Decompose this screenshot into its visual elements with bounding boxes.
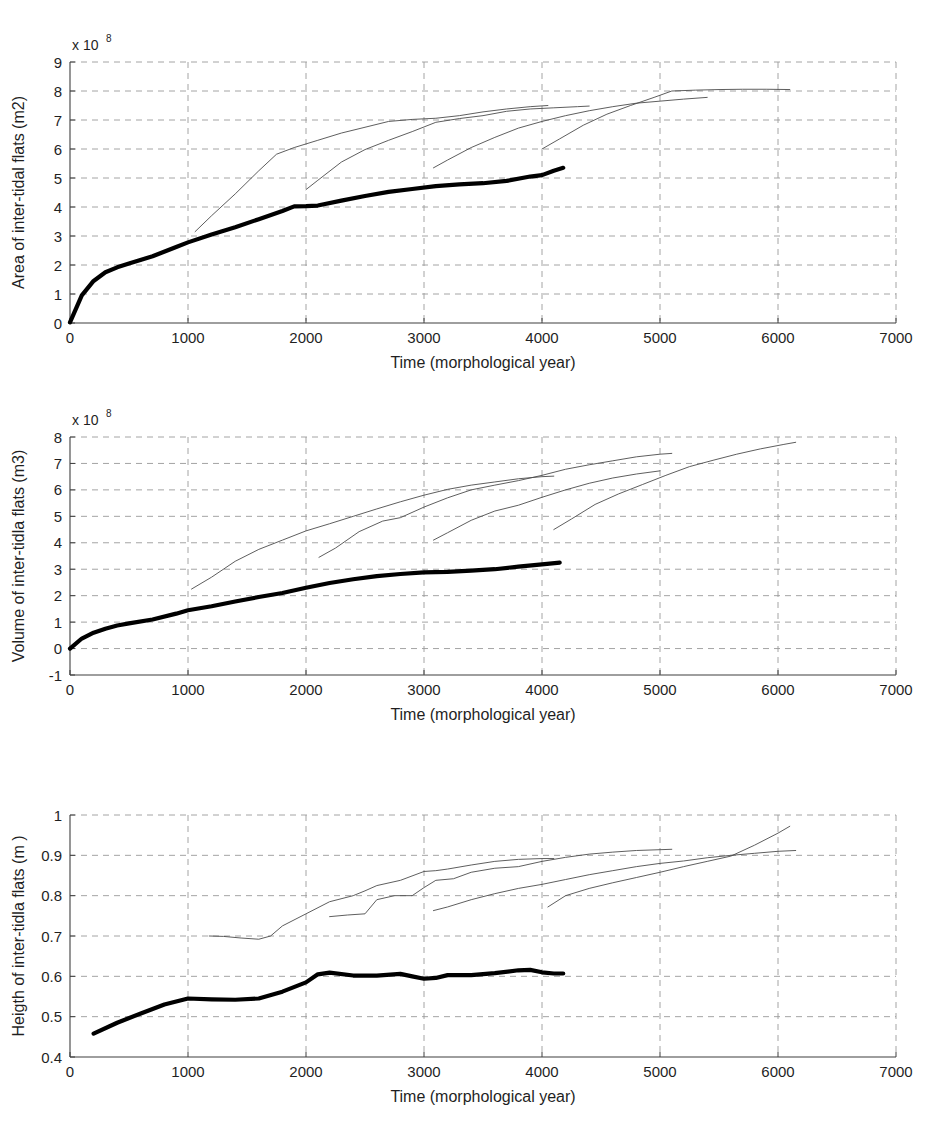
x-tick-label: 3000 [407, 1063, 440, 1080]
x-tick-label: 5000 [643, 681, 676, 698]
series-line-thin [319, 453, 672, 557]
x-tick-label: 5000 [643, 329, 676, 346]
y-tick-label: 0.5 [41, 1008, 62, 1025]
tick-marks: 010002000300040005000600070000.40.50.60.… [41, 807, 913, 1081]
x-tick-label: 0 [66, 1063, 74, 1080]
grid-lines [70, 815, 896, 1057]
x-axis-label: Time (morphological year) [390, 706, 575, 723]
x-tick-label: 7000 [879, 329, 912, 346]
plot-area: 01000200030004000500060007000-1012345678… [10, 408, 913, 723]
y-tick-label: 4 [54, 199, 62, 216]
y-multiplier-text: x 10 [72, 37, 99, 53]
series-group [94, 826, 796, 1033]
x-tick-label: 2000 [289, 329, 322, 346]
y-tick-label: 1 [54, 286, 62, 303]
series-line-thick [94, 970, 564, 1034]
y-axis-label: Volume of inter-tidla flats (m3) [10, 450, 27, 663]
x-tick-label: 3000 [407, 329, 440, 346]
y-tick-label: 5 [54, 170, 62, 187]
y-tick-label: 2 [54, 257, 62, 274]
x-tick-label: 0 [66, 681, 74, 698]
series-line-thick [70, 563, 560, 649]
x-tick-label: 3000 [407, 681, 440, 698]
x-tick-label: 6000 [761, 681, 794, 698]
chart-panel-area: 010002000300040005000600070000123456789x… [0, 0, 947, 385]
y-axis-multiplier: x 108 [72, 408, 112, 428]
figure-caption [0, 1128, 947, 1144]
x-axis-label: Time (morphological year) [390, 1088, 575, 1105]
y-tick-label: 0.8 [41, 887, 62, 904]
y-tick-label: 1 [54, 807, 62, 824]
x-tick-label: 4000 [525, 329, 558, 346]
series-line-thin [195, 106, 548, 232]
x-axis-label: Time (morphological year) [390, 354, 575, 371]
tick-marks: 01000200030004000500060007000-1012345678 [49, 429, 913, 699]
y-tick-label: 9 [54, 54, 62, 71]
y-tick-label: 3 [54, 228, 62, 245]
series-line-thin [433, 850, 795, 910]
y-tick-label: 0 [54, 315, 62, 332]
x-tick-label: 1000 [171, 1063, 204, 1080]
series-line-thin [542, 89, 790, 149]
tick-marks: 010002000300040005000600070000123456789 [54, 54, 913, 347]
x-tick-label: 6000 [761, 1063, 794, 1080]
y-tick-label: 3 [54, 561, 62, 578]
plot-area: 010002000300040005000600070000.40.50.60.… [10, 807, 913, 1106]
figure-root: 010002000300040005000600070000123456789x… [0, 0, 947, 1144]
y-tick-label: 4 [54, 534, 62, 551]
axes [70, 62, 896, 323]
series-line-thick [70, 168, 563, 323]
volume-chart-svg: 01000200030004000500060007000-1012345678… [0, 385, 947, 760]
y-tick-label: 8 [54, 83, 62, 100]
y-multiplier-exponent: 8 [106, 33, 112, 44]
series-line-thin [330, 849, 672, 916]
series-line-thin [548, 826, 790, 907]
x-tick-label: 2000 [289, 1063, 322, 1080]
y-tick-label: 7 [54, 112, 62, 129]
y-tick-label: 0.9 [41, 847, 62, 864]
y-axis-multiplier: x 108 [72, 33, 112, 53]
y-tick-label: 6 [54, 481, 62, 498]
y-tick-label: 6 [54, 141, 62, 158]
y-multiplier-exponent: 8 [106, 408, 112, 419]
grid-lines [70, 437, 896, 675]
y-multiplier-text: x 10 [72, 412, 99, 428]
y-tick-label: 0.7 [41, 928, 62, 945]
y-tick-label: 1 [54, 614, 62, 631]
series-line-thin [192, 476, 554, 589]
x-tick-label: 5000 [643, 1063, 676, 1080]
series-line-thin [433, 471, 660, 540]
x-tick-label: 7000 [879, 681, 912, 698]
chart-panel-volume: 01000200030004000500060007000-1012345678… [0, 385, 947, 760]
chart-panel-height: 010002000300040005000600070000.40.50.60.… [0, 760, 947, 1144]
y-tick-label: 0.4 [41, 1049, 62, 1066]
x-tick-label: 4000 [525, 681, 558, 698]
x-tick-label: 2000 [289, 681, 322, 698]
y-tick-label: 2 [54, 587, 62, 604]
y-tick-label: 0 [54, 640, 62, 657]
x-tick-label: 0 [66, 329, 74, 346]
x-tick-label: 1000 [171, 329, 204, 346]
series-group [70, 89, 790, 322]
y-tick-label: 7 [54, 455, 62, 472]
area-chart-svg: 010002000300040005000600070000123456789x… [0, 0, 947, 385]
x-tick-label: 7000 [879, 1063, 912, 1080]
plot-area: 010002000300040005000600070000123456789x… [10, 33, 913, 371]
y-tick-label: 8 [54, 429, 62, 446]
axes [70, 437, 896, 675]
height-chart-svg: 010002000300040005000600070000.40.50.60.… [0, 760, 947, 1144]
x-tick-label: 4000 [525, 1063, 558, 1080]
y-tick-label: -1 [49, 667, 62, 684]
x-tick-label: 1000 [171, 681, 204, 698]
x-tick-label: 6000 [761, 329, 794, 346]
y-axis-label: Area of inter-tidal flats (m2) [10, 96, 27, 289]
y-axis-label: Heigth of inter-tidla flats (m ) [10, 836, 27, 1037]
y-tick-label: 5 [54, 508, 62, 525]
series-line-thin [306, 106, 589, 190]
grid-lines [70, 62, 896, 323]
y-tick-label: 0.6 [41, 968, 62, 985]
series-group [70, 442, 796, 648]
